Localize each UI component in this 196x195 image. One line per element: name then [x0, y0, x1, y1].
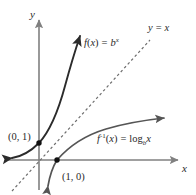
exponential-label-equals: =	[102, 37, 108, 48]
exponential-label-close-paren: )	[95, 37, 99, 49]
exponential-label: f(x)=bx	[84, 36, 120, 49]
point-marker-0-1	[36, 140, 41, 145]
point-label-1-0: (1, 0)	[62, 171, 85, 183]
x-axis-label: x	[181, 162, 187, 174]
graph-canvas: y x f(x)=bx y=x f-1(x)=logbx (0, 1) (1, …	[0, 0, 196, 195]
y-axis-label: y	[29, 8, 35, 20]
identity-label-lhs: y	[147, 22, 153, 33]
logarithm-label-log: log	[129, 133, 143, 144]
identity-label: y=x	[147, 22, 170, 33]
logarithm-label-equals: =	[120, 133, 126, 144]
logarithm-label-log-arg: x	[145, 133, 151, 144]
point-marker-1-0	[54, 157, 59, 162]
logarithm-label-close-paren: )	[114, 133, 118, 145]
svg-text:f(x)=bx: f(x)=bx	[84, 36, 120, 49]
point-label-0-1: (0, 1)	[8, 131, 31, 143]
figure-container: y x f(x)=bx y=x f-1(x)=logbx (0, 1) (1, …	[0, 0, 196, 195]
identity-label-equals: =	[156, 22, 162, 33]
svg-text:y=x: y=x	[147, 22, 170, 33]
identity-label-rhs: x	[164, 22, 170, 33]
